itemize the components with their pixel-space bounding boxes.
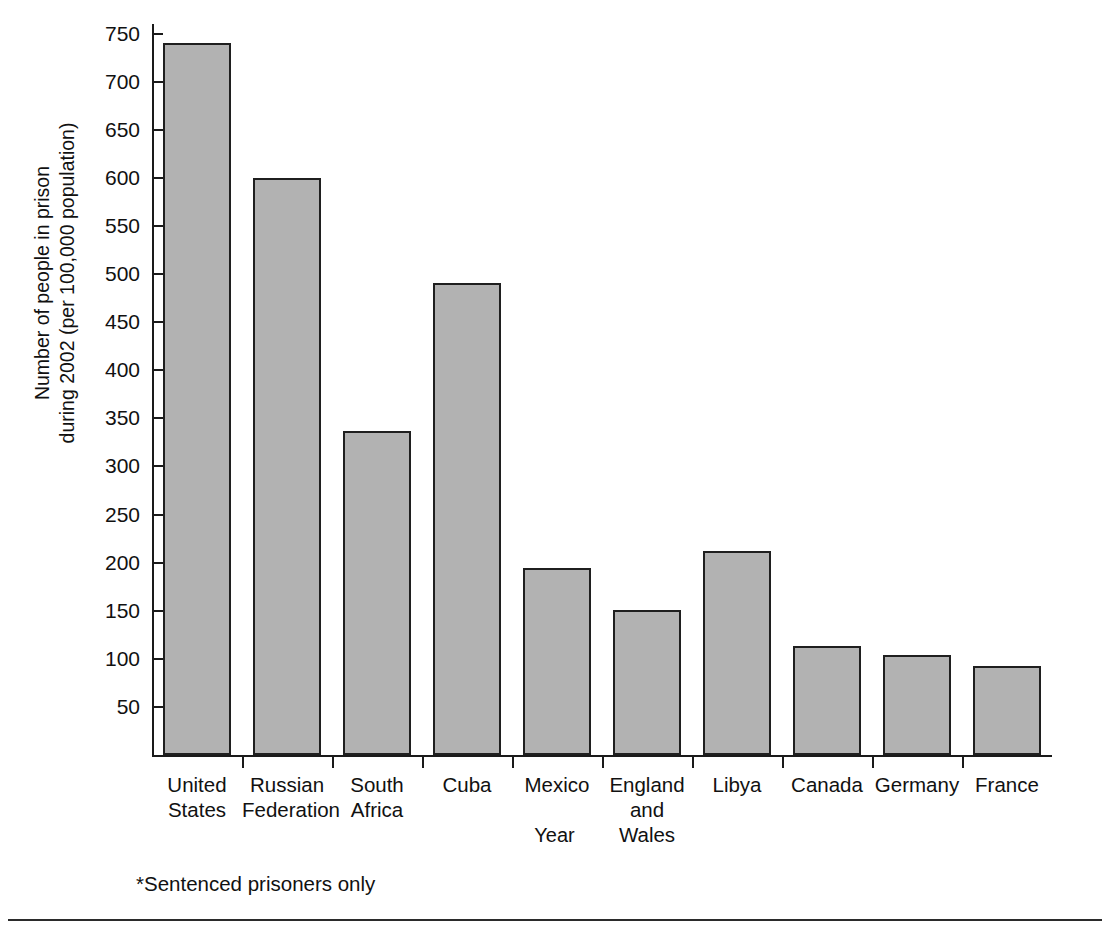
page-divider-rule (8, 919, 1102, 921)
y-axis-tick (152, 658, 163, 660)
y-axis-tick-label: 550 (70, 215, 140, 236)
y-axis-tick (152, 81, 163, 83)
y-axis-tick (152, 225, 163, 227)
y-axis-tick-label: 300 (70, 455, 140, 476)
y-axis-tick (152, 610, 163, 612)
y-axis-tick (152, 369, 163, 371)
bar (343, 431, 411, 755)
bar (613, 610, 681, 755)
y-axis-tick-label: 250 (70, 504, 140, 525)
bar (523, 568, 591, 755)
x-axis-tick (962, 757, 964, 768)
bar (973, 666, 1041, 755)
y-axis-tick (152, 129, 163, 131)
bar (433, 283, 501, 755)
x-axis-category-label: Cuba (422, 772, 512, 797)
bar (703, 551, 771, 755)
x-axis-category-label: France (962, 772, 1052, 797)
x-axis-tick (242, 757, 244, 768)
y-axis-tick (152, 562, 163, 564)
y-axis-tick (152, 273, 163, 275)
x-axis-tick (872, 757, 874, 768)
y-axis-tick (152, 177, 163, 179)
y-axis-tick-label: 600 (70, 167, 140, 188)
y-axis-tick-label: 700 (70, 71, 140, 92)
y-axis-tick-label: 450 (70, 311, 140, 332)
bar (253, 178, 321, 755)
x-axis-category-label: Mexico (512, 772, 602, 797)
y-axis-tick-label: 150 (70, 600, 140, 621)
y-axis-tick-label: 100 (70, 648, 140, 669)
x-axis-category-label: Russian Federation (242, 772, 332, 822)
y-axis-tick-label: 500 (70, 263, 140, 284)
chart-footnote: *Sentenced prisoners only (136, 872, 375, 896)
x-axis-tick (602, 757, 604, 768)
y-axis-tick-label: 650 (70, 119, 140, 140)
bar (793, 646, 861, 755)
y-axis-tick (152, 321, 163, 323)
y-axis-tick-label: 350 (70, 407, 140, 428)
y-axis-tick-label: 200 (70, 552, 140, 573)
y-axis-tick (152, 706, 163, 708)
x-axis-tick (422, 757, 424, 768)
x-axis-tick (782, 757, 784, 768)
y-axis-tick-label: 400 (70, 359, 140, 380)
y-axis-tick-label: 50 (70, 696, 140, 717)
figure-page: Number of people in prison during 2002 (… (0, 0, 1109, 935)
y-axis-tick-label: 750 (70, 23, 140, 44)
y-axis-tick (152, 417, 163, 419)
x-axis-tick (512, 757, 514, 768)
bar-chart: Number of people in prison during 2002 (… (0, 0, 1109, 880)
bar (163, 43, 231, 755)
bar (883, 655, 951, 755)
x-axis-tick (332, 757, 334, 768)
x-axis-category-label: Germany (872, 772, 962, 797)
x-axis-category-label: South Africa (332, 772, 422, 822)
y-axis-tick (152, 465, 163, 467)
y-axis-tick (152, 514, 163, 516)
x-axis-category-label: United States (152, 772, 242, 822)
y-axis-tick (152, 33, 163, 35)
y-axis-line (152, 24, 154, 757)
x-axis-category-label: Canada (782, 772, 872, 797)
x-axis-category-label: Libya (692, 772, 782, 797)
x-axis-title: Year (0, 824, 1109, 847)
x-axis-tick (692, 757, 694, 768)
